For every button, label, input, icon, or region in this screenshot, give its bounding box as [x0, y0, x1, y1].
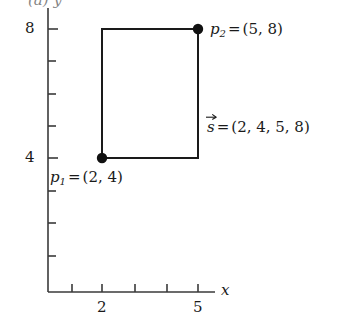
- plot-canvas: [0, 0, 351, 325]
- bounding-rectangle: [102, 29, 198, 158]
- point-p1-label: p1=(2, 4): [50, 170, 123, 185]
- point-p2-marker: [193, 24, 203, 34]
- y-axis-ticks: [48, 29, 58, 256]
- y-tick-label-4: 4: [25, 150, 35, 165]
- y-tick-label-8: 8: [25, 21, 35, 36]
- p2-value: (5, 8): [243, 20, 283, 38]
- x-axis-label: x: [221, 283, 229, 298]
- figure-container: (a) y 8 4 2 5 x p2=(5, 8) p1=(2, 4) s =(…: [0, 0, 351, 325]
- p2-symbol: p: [210, 20, 220, 38]
- caption-fragment-clip: (a) y: [0, 0, 351, 10]
- x-tick-label-5: 5: [193, 300, 203, 315]
- s-value: (2, 4, 5, 8): [231, 118, 310, 136]
- vector-s-symbol-group: s: [207, 120, 215, 135]
- x-axis-ticks: [72, 284, 198, 292]
- p1-equals: =: [66, 168, 83, 186]
- p2-subscript: 2: [220, 28, 226, 39]
- s-equals: =: [215, 118, 232, 136]
- point-p2-label: p2=(5, 8): [210, 22, 283, 37]
- point-p1-marker: [97, 153, 107, 163]
- x-tick-label-2: 2: [97, 300, 107, 315]
- p2-equals: =: [226, 20, 243, 38]
- p1-subscript: 1: [60, 176, 66, 187]
- vector-s-label: s =(2, 4, 5, 8): [207, 120, 310, 135]
- p1-symbol: p: [50, 168, 60, 186]
- figure-caption-fragment: (a) y: [28, 0, 62, 8]
- p1-value: (2, 4): [83, 168, 123, 186]
- s-symbol: s: [207, 118, 215, 136]
